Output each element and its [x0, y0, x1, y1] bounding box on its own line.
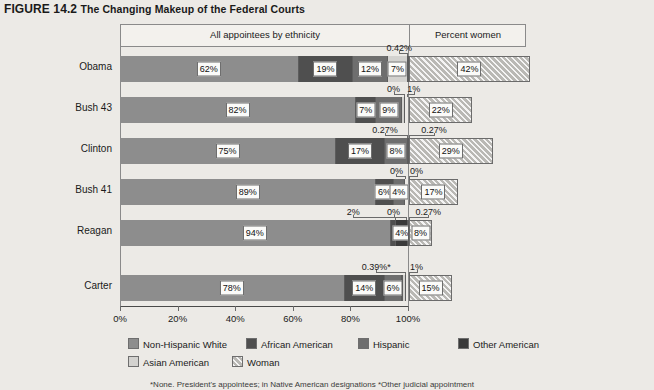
axis-tick — [120, 306, 121, 311]
segment-value-label: 15% — [419, 281, 443, 296]
callout-leader-line — [394, 217, 406, 218]
legend-swatch-asian — [128, 356, 139, 367]
bar-segment-other: 4% — [396, 220, 408, 246]
bar-row: Clinton75%17%8%29% — [0, 138, 654, 164]
callout-leader-tick — [385, 133, 386, 136]
callout-leader-tick — [409, 217, 410, 220]
segment-value-label: 19% — [313, 62, 337, 77]
callout-leader-line — [396, 176, 405, 177]
segment-value-label: 6% — [384, 281, 403, 296]
axis-tick-label: 60% — [283, 313, 302, 324]
bar-segment-woman: 42% — [409, 56, 530, 82]
axis-tick — [178, 306, 179, 311]
bar-row: Bush 4189%6%4%17% — [0, 179, 654, 205]
segment-value-label: 75% — [215, 144, 239, 159]
segment-value-label: 29% — [439, 144, 463, 159]
legend-label: African American — [261, 339, 333, 350]
callout-leader-tick — [409, 272, 410, 275]
legend-item-african[interactable]: African American — [246, 334, 333, 349]
callout-leader-tick — [414, 92, 415, 95]
callout-leader-tick — [407, 53, 408, 56]
legend-swatch-african — [246, 338, 257, 349]
bar-segment-woman: 22% — [409, 97, 472, 123]
chart-canvas: All appointees by ethnicity Percent wome… — [0, 0, 654, 390]
bar-segment-african: 19% — [299, 56, 354, 82]
callout-leader-tick — [428, 215, 429, 218]
segment-value-label: 42% — [457, 62, 481, 77]
footnote: *Nonе. President's appointees; in Native… — [150, 380, 650, 389]
segment-value-label: 17% — [348, 144, 372, 159]
axis-tick-label: 100% — [396, 313, 420, 324]
legend-swatch-white — [128, 338, 139, 349]
legend-item-woman[interactable]: Woman — [232, 352, 280, 367]
bar-segment-hisp: 12% — [353, 56, 388, 82]
segment-value-label: 7% — [356, 103, 375, 118]
callout-leader-tick — [417, 270, 418, 273]
segment-value-label: 14% — [352, 281, 376, 296]
segment-value-label: 62% — [197, 62, 221, 77]
legend-item-white[interactable]: Non-Hispanic White — [128, 334, 227, 349]
bar-segment-woman: 15% — [409, 275, 452, 301]
bar-segment-white: 94% — [120, 220, 391, 246]
bar-segment-white: 89% — [120, 179, 376, 205]
axis-tick-label: 20% — [168, 313, 187, 324]
segment-value-label: 17% — [421, 185, 445, 200]
segment-value-label: 8% — [386, 144, 405, 159]
row-label-carter: Carter — [0, 280, 116, 291]
axis-tick — [408, 306, 409, 311]
bar-segment-asian: 7% — [388, 56, 408, 82]
bar-segment-hisp: 8% — [385, 138, 408, 164]
callout-leader-line — [409, 176, 417, 177]
callout-leader-line — [385, 135, 407, 136]
legend-item-hisp[interactable]: Hispanic — [358, 334, 409, 349]
segment-value-label: 94% — [243, 226, 267, 241]
band-label-ethnicity: All appointees by ethnicity — [121, 29, 409, 40]
callout-leader-line — [376, 272, 405, 273]
callout-leader-tick — [394, 92, 395, 95]
bar-segment-african: 14% — [345, 275, 385, 301]
legend-label: Hispanic — [373, 339, 409, 350]
row-label-clinton: Clinton — [0, 143, 116, 154]
callout-leader-tick — [353, 215, 354, 218]
bar-row: Bush 4382%7%9%22% — [0, 97, 654, 123]
callout-leader-tick — [434, 133, 435, 136]
callout-leader-tick — [405, 272, 406, 275]
segment-value-label: 78% — [220, 281, 244, 296]
bar-segment-hisp: 6% — [385, 275, 402, 301]
callout-leader-tick — [406, 217, 407, 220]
callout-leader-tick — [404, 94, 405, 97]
axis-top-line — [120, 46, 526, 47]
callout-leader-tick — [396, 174, 397, 177]
segment-value-label: 7% — [388, 62, 407, 77]
callout-leader-tick — [409, 135, 410, 138]
bar-segment-white: 82% — [120, 97, 356, 123]
axis-tick — [235, 306, 236, 311]
legend-swatch-other — [458, 338, 469, 349]
bar-segment-hisp: 4% — [394, 179, 406, 205]
callout-leader-line — [409, 217, 428, 218]
callout-leader-tick — [376, 270, 377, 273]
legend-item-other[interactable]: Other American — [458, 334, 539, 349]
bar-segment-white: 78% — [120, 275, 345, 301]
row-label-obama: Obama — [0, 61, 116, 72]
legend-item-asian[interactable]: Asian American — [128, 352, 209, 367]
axis-baseline — [120, 306, 409, 307]
bar-segment-african: 17% — [336, 138, 385, 164]
bar-segment-african: 7% — [356, 97, 376, 123]
legend-label: Asian American — [143, 357, 209, 368]
segment-value-label: 82% — [226, 103, 250, 118]
bar-segment-woman: 29% — [409, 138, 493, 164]
callout-leader-line — [407, 94, 414, 95]
legend-swatch-hisp — [358, 338, 369, 349]
column-band-header: All appointees by ethnicity Percent wome… — [120, 24, 526, 46]
axis-tick — [350, 306, 351, 311]
callout-leader-tick — [399, 51, 400, 54]
callout-leader-tick — [405, 176, 406, 179]
legend-label: Woman — [247, 357, 280, 368]
axis-tick — [293, 306, 294, 311]
row-label-bush-41: Bush 41 — [0, 184, 116, 195]
row-label-reagan: Reagan — [0, 225, 116, 236]
callout-leader-tick — [407, 94, 408, 97]
bar-row: Carter78%14%6%15% — [0, 275, 654, 301]
segment-value-label: 89% — [236, 185, 260, 200]
